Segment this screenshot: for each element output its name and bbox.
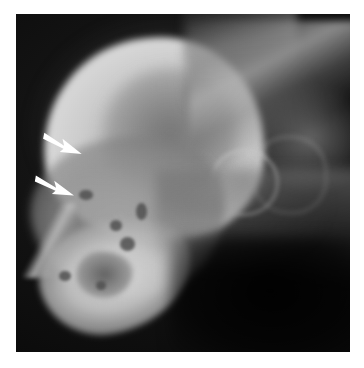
pharyngeal-air-region: [170, 237, 350, 352]
tooth-void-region: [59, 271, 70, 281]
figure-caption: Lateral radiograph of the skull showing …: [0, 0, 1, 1]
tooth-void-region: [96, 281, 105, 290]
figure-root: Lateral radiograph of the skull showing …: [0, 0, 364, 368]
tooth-void-region: [79, 190, 92, 200]
tooth-void-region: [136, 203, 147, 220]
radiograph-plate: [16, 14, 350, 352]
tooth-void-region: [120, 237, 135, 251]
tooth-void-region: [110, 220, 122, 231]
